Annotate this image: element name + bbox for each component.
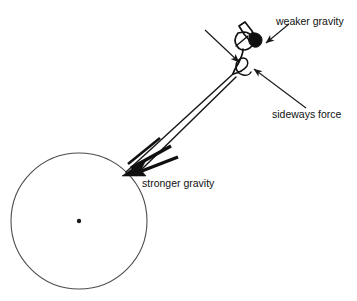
diagram-background [0,0,357,301]
label-sideways-force: sideways force [272,108,342,120]
label-stronger-gravity: stronger gravity [142,177,215,189]
label-weaker-gravity: weaker gravity [275,15,344,27]
tidal-force-diagram: weaker gravity sideways force stronger g… [0,0,357,301]
object-dark-blob [249,33,262,47]
diagram-canvas: weaker gravity sideways force stronger g… [0,0,357,301]
planet-center-dot [77,219,81,223]
